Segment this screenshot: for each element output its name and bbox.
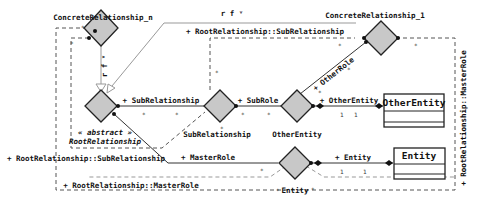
- entity-diamond[interactable]: [279, 147, 311, 179]
- rf-vertical-label: r f ᵛ: [100, 55, 109, 78]
- sub-relationship-dashed-top: [210, 38, 355, 90]
- multiplicity-one: 1: [354, 111, 358, 118]
- multiplicity: *: [267, 111, 271, 118]
- generalization-arrowhead-1: [107, 84, 115, 93]
- multiplicity: *: [260, 167, 264, 174]
- end-dot: [311, 104, 315, 108]
- other-entity-role-label: + OtherEntity: [320, 96, 379, 105]
- multiplicity: *: [241, 111, 245, 118]
- concrete-relationship-1-diamond[interactable]: [364, 21, 398, 55]
- concrete-relationship-n-label: ConcreteRelationship_n: [53, 13, 152, 22]
- multiplicity: *: [414, 42, 418, 49]
- root-sub-left-label: + RootRelationship::SubRelationship: [7, 154, 166, 163]
- abstract-stereotype: « abstract »: [78, 128, 133, 137]
- other-entity-class[interactable]: OtherEntity: [383, 94, 446, 127]
- end-dot: [396, 36, 400, 40]
- multiplicity: *: [347, 66, 351, 73]
- sub-role-label: + SubRole: [238, 96, 279, 105]
- multiplicity: *: [220, 125, 224, 132]
- multiplicity: *: [215, 69, 219, 76]
- end-dot: [309, 161, 313, 165]
- end-dot: [93, 29, 97, 33]
- concrete-relationship-1-label: ConcreteRelationship_1: [325, 11, 425, 20]
- other-entity-diamond[interactable]: [281, 90, 313, 122]
- entity-class-name: Entity: [402, 150, 437, 161]
- multiplicity: *: [175, 111, 179, 118]
- sub-relationship-role-label: + SubRelationship: [123, 96, 200, 105]
- end-dot: [112, 112, 116, 116]
- entity-role-label: + Entity: [335, 153, 372, 162]
- other-role-label: + OtherRole: [311, 55, 356, 93]
- entity-relationship-label: Entity: [281, 186, 309, 195]
- rf-top-label: r f ᵛ: [221, 9, 244, 18]
- multiplicity: *: [70, 40, 74, 47]
- end-dot: [87, 36, 91, 40]
- root-master-bottom-label: + RootRelationship::MasterRole: [63, 181, 199, 190]
- root-relationship-diamond[interactable]: [85, 90, 117, 122]
- end-dot: [362, 36, 366, 40]
- end-dot: [116, 104, 120, 108]
- multiplicity: *: [311, 186, 315, 193]
- multiplicity: *: [276, 187, 280, 194]
- other-entity-class-name: OtherEntity: [383, 97, 446, 108]
- root-master-right-label: + RootRelationship::MasterRole: [459, 50, 468, 186]
- root-sub-top-label: + RootRelationship::SubRelationship: [186, 27, 345, 36]
- multiplicity: *: [318, 89, 322, 96]
- sub-relationship-diamond[interactable]: [204, 90, 236, 122]
- multiplicity: *: [338, 42, 342, 49]
- multiplicity-one: 1: [340, 111, 344, 118]
- master-role-label: + MasterRole: [181, 153, 236, 162]
- multiplicity-one: 1: [340, 168, 344, 175]
- entity-class[interactable]: Entity: [394, 148, 445, 179]
- entity-dashed-left: [88, 166, 286, 177]
- composition-diamond: [385, 160, 393, 166]
- multiplicity: *: [142, 111, 146, 118]
- sub-relationship-label: SubRelationship: [183, 130, 251, 139]
- multiplicity: *: [81, 24, 85, 31]
- multiplicity-one: 1: [363, 168, 367, 175]
- root-relationship-label: RootRelationship: [69, 137, 142, 146]
- end-dot: [364, 40, 368, 44]
- other-entity-relationship-label: OtherEntity: [272, 130, 322, 139]
- uml-diagram: OtherEntity Entity ConcreteRelationship_…: [0, 0, 484, 205]
- composition-diamond: [314, 160, 322, 166]
